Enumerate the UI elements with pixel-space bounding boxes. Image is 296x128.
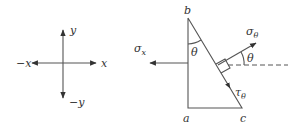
- label-pos-y: y: [69, 24, 77, 37]
- angle-arc-normal: [241, 52, 244, 65]
- triangle-outline: [188, 18, 242, 108]
- angle-arc-b: [188, 40, 201, 44]
- label-neg-x: −x: [16, 57, 32, 70]
- tau-theta-label: τθ: [235, 86, 246, 101]
- sigma-theta-label: σθ: [246, 25, 259, 40]
- label-neg-y: −y: [69, 96, 85, 109]
- triangle-element: b a c θ σx σθ θ τθ: [134, 4, 288, 125]
- vertex-c: c: [240, 112, 246, 125]
- vertex-b: b: [184, 4, 191, 17]
- angle-label-b: θ: [191, 46, 198, 59]
- label-pos-x: x: [101, 57, 108, 70]
- sigma-x-label: σx: [134, 42, 147, 57]
- stress-element-diagram: x −x y −y b a c θ σx σθ θ τθ: [0, 0, 296, 128]
- angle-label-normal: θ: [247, 52, 254, 65]
- right-angle-marker: [216, 59, 230, 73]
- coordinate-axes: x −x y −y: [16, 24, 108, 109]
- vertex-a: a: [183, 112, 190, 125]
